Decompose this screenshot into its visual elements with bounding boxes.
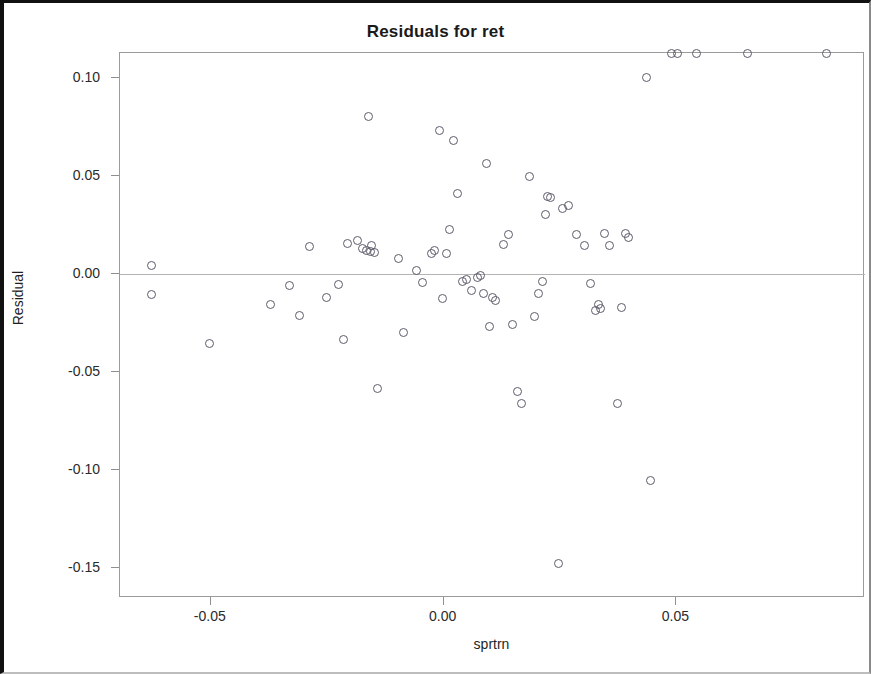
chart-title: Residuals for ret bbox=[0, 22, 871, 42]
data-point bbox=[453, 189, 462, 198]
x-axis-label: sprtrn bbox=[119, 636, 864, 652]
y-axis-tick-mark bbox=[111, 567, 119, 568]
x-axis-tick-mark bbox=[210, 597, 211, 605]
data-point bbox=[485, 322, 494, 331]
zero-reference-line bbox=[120, 274, 865, 275]
y-axis-tick-label: 0.10 bbox=[38, 69, 100, 85]
data-point bbox=[373, 384, 382, 393]
x-axis-tick-label: 0.00 bbox=[398, 608, 488, 624]
data-point bbox=[435, 126, 444, 135]
data-point bbox=[147, 290, 156, 299]
data-point bbox=[295, 311, 304, 320]
data-point bbox=[580, 241, 589, 250]
data-point bbox=[147, 261, 156, 270]
data-point bbox=[412, 266, 421, 275]
data-point bbox=[370, 248, 379, 257]
data-point bbox=[617, 303, 626, 312]
data-point bbox=[364, 112, 373, 121]
data-point bbox=[564, 201, 573, 210]
data-point bbox=[508, 320, 517, 329]
data-point bbox=[438, 294, 447, 303]
x-axis-tick-label: -0.05 bbox=[165, 608, 255, 624]
data-point bbox=[822, 49, 831, 58]
data-point bbox=[743, 49, 752, 58]
data-point bbox=[285, 281, 294, 290]
data-point bbox=[517, 399, 526, 408]
y-axis-tick-mark bbox=[111, 175, 119, 176]
y-axis-tick-label: -0.05 bbox=[38, 363, 100, 379]
data-point bbox=[449, 136, 458, 145]
data-point bbox=[600, 229, 609, 238]
y-axis-tick-mark bbox=[111, 273, 119, 274]
data-point bbox=[394, 254, 403, 263]
data-point bbox=[530, 312, 539, 321]
data-point bbox=[605, 241, 614, 250]
data-point bbox=[322, 293, 331, 302]
data-point bbox=[305, 242, 314, 251]
data-point bbox=[479, 289, 488, 298]
data-point bbox=[491, 296, 500, 305]
x-axis-tick-label: 0.05 bbox=[630, 608, 720, 624]
data-point bbox=[467, 286, 476, 295]
data-point bbox=[546, 193, 555, 202]
data-point bbox=[504, 230, 513, 239]
data-point bbox=[343, 239, 352, 248]
data-point bbox=[538, 277, 547, 286]
data-point bbox=[673, 49, 682, 58]
data-point bbox=[525, 172, 534, 181]
data-point bbox=[586, 279, 595, 288]
data-point bbox=[596, 304, 605, 313]
data-point bbox=[513, 387, 522, 396]
data-point bbox=[554, 559, 563, 568]
y-axis-tick-label: 0.00 bbox=[38, 265, 100, 281]
scatter-plot-figure: Residuals for ret Residual sprtrn 0.100.… bbox=[0, 0, 871, 674]
data-point bbox=[334, 280, 343, 289]
data-point bbox=[430, 246, 439, 255]
data-point bbox=[445, 225, 454, 234]
y-axis-tick-mark bbox=[111, 371, 119, 372]
data-point bbox=[205, 339, 214, 348]
data-point bbox=[624, 233, 633, 242]
data-point bbox=[499, 240, 508, 249]
data-point bbox=[613, 399, 622, 408]
data-point bbox=[266, 300, 275, 309]
data-point bbox=[399, 328, 408, 337]
x-axis-tick-mark bbox=[443, 597, 444, 605]
x-axis-tick-mark bbox=[675, 597, 676, 605]
y-axis-tick-label: -0.10 bbox=[38, 461, 100, 477]
data-point bbox=[541, 210, 550, 219]
data-point bbox=[482, 159, 491, 168]
data-point bbox=[442, 249, 451, 258]
data-point bbox=[476, 271, 485, 280]
data-point bbox=[646, 476, 655, 485]
y-axis-tick-label: -0.15 bbox=[38, 559, 100, 575]
y-axis-tick-mark bbox=[111, 469, 119, 470]
data-point bbox=[462, 275, 471, 284]
data-point bbox=[339, 335, 348, 344]
y-axis-tick-mark bbox=[111, 77, 119, 78]
data-point bbox=[572, 230, 581, 239]
plot-area bbox=[119, 52, 864, 597]
data-point bbox=[692, 49, 701, 58]
data-point bbox=[418, 278, 427, 287]
screenshot-root: Residuals for ret Residual sprtrn 0.100.… bbox=[0, 0, 871, 674]
y-axis-tick-label: 0.05 bbox=[38, 167, 100, 183]
data-point bbox=[534, 289, 543, 298]
y-axis-label: Residual bbox=[10, 238, 26, 358]
data-point bbox=[642, 73, 651, 82]
